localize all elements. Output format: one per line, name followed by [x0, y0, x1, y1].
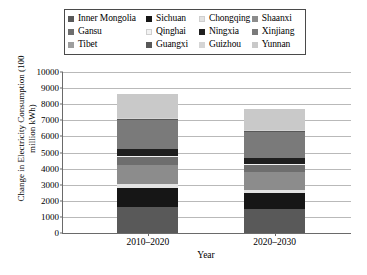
y-tick-label: 0: [55, 229, 60, 238]
legend-row: Inner MongoliaSichuanChongqingShaanxi: [68, 12, 302, 25]
bar-segment[interactable]: [117, 207, 178, 233]
bar-segment[interactable]: [244, 109, 305, 130]
legend-swatch-icon: [146, 16, 152, 22]
y-tick-label: 1000: [41, 212, 59, 221]
legend-swatch-icon: [252, 29, 258, 35]
gridline: [63, 217, 351, 218]
gridline: [63, 153, 351, 154]
y-tick-label: 3000: [41, 180, 59, 189]
x-tick-label: 2020–2030: [253, 237, 296, 247]
gridline: [63, 120, 351, 121]
legend-item-label: Sichuan: [156, 13, 186, 24]
gridline: [63, 185, 351, 186]
chart-legend: Inner MongoliaSichuanChongqingShaanxiGan…: [64, 9, 306, 55]
y-tick-label: 5000: [41, 148, 59, 157]
y-tick-label: 10000: [37, 68, 60, 77]
legend-item-label: Yunnan: [262, 39, 290, 50]
legend-item[interactable]: Gansu: [68, 26, 146, 37]
chart-area: Change in Electricity Consumption (100 m…: [0, 62, 367, 275]
stacked-bar[interactable]: [244, 109, 305, 233]
y-tick-mark: [60, 72, 63, 73]
y-tick-mark: [60, 233, 63, 234]
y-axis-title: Change in Electricity Consumption (100 m…: [16, 54, 37, 204]
legend-swatch-icon: [199, 29, 205, 35]
gridline: [63, 136, 351, 137]
legend-item-label: Inner Mongolia: [78, 13, 136, 24]
y-tick-mark: [60, 152, 63, 153]
bar-segment[interactable]: [244, 172, 305, 190]
bar-segment[interactable]: [117, 157, 178, 164]
legend-item[interactable]: Shaanxi: [252, 13, 302, 24]
gridline: [63, 104, 351, 105]
y-tick-label: 7000: [41, 116, 59, 125]
legend-swatch-icon: [199, 42, 205, 48]
x-tick-mark: [275, 233, 276, 236]
gridline: [63, 72, 351, 73]
y-tick-label: 6000: [41, 132, 59, 141]
x-axis-title: Year: [62, 250, 350, 260]
y-tick-label: 2000: [41, 196, 59, 205]
legend-item-label: Shaanxi: [262, 13, 292, 24]
legend-item[interactable]: Qinghai: [146, 26, 199, 37]
legend-item[interactable]: Ningxia: [199, 26, 252, 37]
legend-swatch-icon: [68, 29, 74, 35]
legend-item-label: Qinghai: [156, 26, 186, 37]
legend-swatch-icon: [68, 42, 74, 48]
legend-swatch-icon: [146, 29, 152, 35]
legend-item[interactable]: Guangxi: [146, 39, 199, 50]
legend-item[interactable]: Xinjiang: [252, 26, 302, 37]
y-tick-mark: [60, 216, 63, 217]
legend-item-label: Tibet: [78, 39, 97, 50]
legend-row: GansuQinghaiNingxiaXinjiang: [68, 25, 302, 38]
bar-segment[interactable]: [117, 94, 178, 118]
y-tick-mark: [60, 104, 63, 105]
y-tick-label: 9000: [41, 84, 59, 93]
legend-item-label: Guizhou: [209, 39, 241, 50]
legend-item[interactable]: Tibet: [68, 39, 146, 50]
gridline: [63, 169, 351, 170]
y-tick-mark: [60, 168, 63, 169]
legend-item[interactable]: Guizhou: [199, 39, 252, 50]
y-tick-label: 4000: [41, 164, 59, 173]
bar-segment[interactable]: [244, 132, 305, 158]
legend-swatch-icon: [252, 42, 258, 48]
bar-segment[interactable]: [244, 193, 305, 209]
bar-segment[interactable]: [117, 188, 178, 207]
legend-item[interactable]: Sichuan: [146, 13, 199, 24]
y-tick-mark: [60, 88, 63, 89]
y-tick-mark: [60, 184, 63, 185]
y-tick-label: 8000: [41, 100, 59, 109]
y-tick-mark: [60, 200, 63, 201]
legend-swatch-icon: [252, 16, 258, 22]
legend-item[interactable]: Yunnan: [252, 39, 302, 50]
legend-item-label: Xinjiang: [262, 26, 294, 37]
plot-area: 0100020003000400050006000700080009000100…: [62, 72, 351, 234]
x-tick-mark: [148, 233, 149, 236]
y-tick-mark: [60, 120, 63, 121]
legend-item-label: Gansu: [78, 26, 102, 37]
legend-swatch-icon: [199, 16, 205, 22]
x-tick-label: 2010–2020: [127, 237, 170, 247]
bar-segment[interactable]: [117, 165, 178, 184]
legend-swatch-icon: [146, 42, 152, 48]
legend-row: TibetGuangxiGuizhouYunnan: [68, 38, 302, 51]
legend-item[interactable]: Chongqing: [199, 13, 252, 24]
bar-segment[interactable]: [244, 209, 305, 233]
bar-segment[interactable]: [117, 120, 178, 149]
legend-item-label: Chongqing: [209, 13, 250, 24]
gridline: [63, 88, 351, 89]
legend-item[interactable]: Inner Mongolia: [68, 13, 146, 24]
legend-item-label: Guangxi: [156, 39, 188, 50]
stacked-bar[interactable]: [117, 94, 178, 233]
gridline: [63, 201, 351, 202]
legend-item-label: Ningxia: [209, 26, 239, 37]
y-tick-mark: [60, 136, 63, 137]
legend-swatch-icon: [68, 16, 74, 22]
